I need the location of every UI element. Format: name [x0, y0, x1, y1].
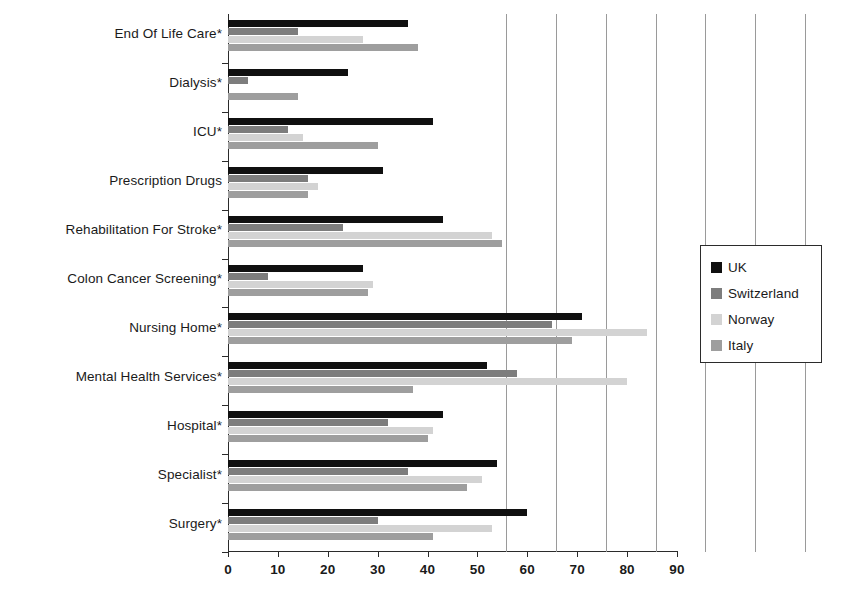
bar-switzerland — [228, 175, 308, 182]
x-tick-label: 80 — [607, 562, 647, 577]
x-tick-label: 40 — [408, 562, 448, 577]
y-tick-mark — [222, 63, 228, 64]
bar-norway — [228, 232, 492, 239]
x-tick-label: 90 — [657, 562, 697, 577]
bar-uk — [228, 216, 443, 223]
y-axis-category-label: Nursing Home* — [4, 320, 222, 335]
legend-label: Italy — [728, 338, 753, 353]
y-tick-mark — [222, 552, 228, 553]
legend-item[interactable]: Norway — [711, 306, 821, 332]
bar-italy — [228, 533, 433, 540]
bar-switzerland — [228, 468, 408, 475]
bar-italy — [228, 142, 378, 149]
bar-italy — [228, 435, 428, 442]
legend-swatch-icon — [711, 340, 722, 351]
bar-italy — [228, 289, 368, 296]
bar-switzerland — [228, 419, 388, 426]
x-tick-label: 70 — [557, 562, 597, 577]
bar-switzerland — [228, 224, 343, 231]
bar-italy — [228, 484, 467, 491]
bar-uk — [228, 313, 582, 320]
bar-uk — [228, 167, 383, 174]
plot-area — [228, 14, 677, 552]
bar-switzerland — [228, 126, 288, 133]
bar-norway — [228, 525, 492, 532]
bar-italy — [228, 191, 308, 198]
bar-italy — [228, 93, 298, 100]
chart-legend: UKSwitzerlandNorwayItaly — [700, 245, 822, 363]
x-gridline — [506, 14, 507, 552]
bar-uk — [228, 411, 443, 418]
y-tick-mark — [222, 210, 228, 211]
bar-norway — [228, 281, 373, 288]
bar-norway — [228, 378, 627, 385]
x-tick-label: 20 — [308, 562, 348, 577]
y-axis-category-label: Specialist* — [4, 467, 222, 482]
y-tick-mark — [222, 503, 228, 504]
bar-norway — [228, 183, 318, 190]
y-axis-category-labels: End Of Life Care*Dialysis*ICU*Prescripti… — [0, 0, 222, 597]
y-axis-category-label: Colon Cancer Screening* — [4, 271, 222, 286]
bar-norway — [228, 36, 363, 43]
y-axis-category-label: ICU* — [4, 124, 222, 139]
y-tick-mark — [222, 454, 228, 455]
y-axis-category-label: Rehabilitation For Stroke* — [4, 222, 222, 237]
y-tick-mark — [222, 161, 228, 162]
bar-chart: End Of Life Care*Dialysis*ICU*Prescripti… — [0, 0, 843, 597]
x-tick-mark — [627, 551, 628, 557]
y-tick-mark — [222, 259, 228, 260]
x-tick-mark — [527, 551, 528, 557]
bar-uk — [228, 265, 363, 272]
x-gridline — [606, 14, 607, 552]
x-tick-mark — [677, 551, 678, 557]
y-tick-mark — [222, 112, 228, 113]
legend-label: Switzerland — [728, 286, 799, 301]
legend-item[interactable]: UK — [711, 254, 821, 280]
bar-uk — [228, 362, 487, 369]
legend-label: UK — [728, 260, 747, 275]
x-tick-label: 60 — [507, 562, 547, 577]
y-tick-mark — [222, 405, 228, 406]
bar-italy — [228, 240, 502, 247]
legend-swatch-icon — [711, 288, 722, 299]
y-axis-category-label: Mental Health Services* — [4, 369, 222, 384]
x-tick-mark — [477, 551, 478, 557]
bar-uk — [228, 118, 433, 125]
x-tick-label: 0 — [208, 562, 248, 577]
bar-switzerland — [228, 77, 248, 84]
x-tick-mark — [428, 551, 429, 557]
bar-switzerland — [228, 517, 378, 524]
bar-uk — [228, 69, 348, 76]
bar-switzerland — [228, 321, 552, 328]
x-tick-label: 50 — [457, 562, 497, 577]
legend-swatch-icon — [711, 262, 722, 273]
x-tick-mark — [278, 551, 279, 557]
x-tick-mark — [577, 551, 578, 557]
legend-item[interactable]: Italy — [711, 332, 821, 358]
x-tick-mark — [228, 551, 229, 557]
y-axis-category-label: Prescription Drugs — [4, 173, 222, 188]
bar-norway — [228, 329, 647, 336]
y-axis-category-label: Hospital* — [4, 418, 222, 433]
y-tick-mark — [222, 356, 228, 357]
x-gridline — [656, 14, 657, 552]
bar-italy — [228, 337, 572, 344]
x-gridline — [556, 14, 557, 552]
bar-norway — [228, 476, 482, 483]
bar-uk — [228, 20, 408, 27]
bar-norway — [228, 427, 433, 434]
y-tick-mark — [222, 307, 228, 308]
bar-switzerland — [228, 273, 268, 280]
bar-uk — [228, 460, 497, 467]
legend-item[interactable]: Switzerland — [711, 280, 821, 306]
x-tick-label: 10 — [258, 562, 298, 577]
bar-uk — [228, 509, 527, 516]
bar-switzerland — [228, 28, 298, 35]
bar-italy — [228, 386, 413, 393]
legend-label: Norway — [728, 312, 774, 327]
y-axis-category-label: Dialysis* — [4, 75, 222, 90]
y-axis-category-label: Surgery* — [4, 516, 222, 531]
bar-norway — [228, 134, 303, 141]
x-tick-mark — [378, 551, 379, 557]
x-tick-label: 30 — [358, 562, 398, 577]
